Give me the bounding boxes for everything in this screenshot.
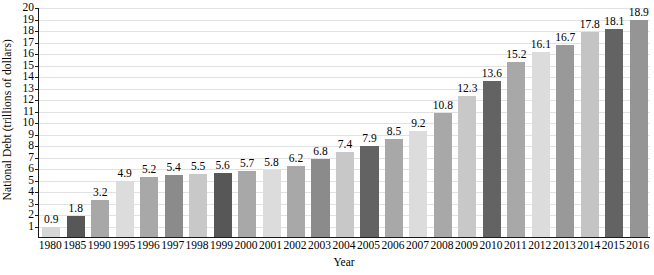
bar-group[interactable]: 16.7: [556, 45, 574, 237]
x-tick-label: 2012: [528, 240, 551, 252]
bar-value-label: 16.1: [531, 39, 551, 51]
bar[interactable]: [385, 139, 403, 237]
y-tick-label: 12: [23, 94, 35, 106]
x-tick-label: 1990: [88, 240, 111, 252]
bar[interactable]: [630, 20, 648, 237]
y-tick-label: 9: [28, 129, 34, 141]
bar-value-label: 6.8: [313, 146, 327, 158]
x-tick-label: 2010: [479, 240, 502, 252]
bar-value-label: 12.3: [457, 83, 477, 95]
bar-value-label: 1.8: [69, 203, 83, 215]
x-tick-label: 1995: [112, 240, 135, 252]
bar-group[interactable]: 5.6: [214, 173, 232, 237]
x-tick-label: 2011: [504, 240, 527, 252]
national-debt-bar-chart: National Debt (trillions of dollars) 123…: [0, 0, 654, 275]
bar-group[interactable]: 5.4: [165, 175, 183, 237]
bar-group[interactable]: 18.9: [630, 20, 648, 237]
y-tick-label: 14: [23, 71, 35, 83]
bar[interactable]: [42, 227, 60, 237]
bar[interactable]: [409, 131, 427, 237]
bar[interactable]: [556, 45, 574, 237]
y-tick-label: 6: [28, 163, 34, 175]
bar-group[interactable]: 15.2: [507, 62, 525, 237]
bar-group[interactable]: 4.9: [116, 181, 134, 237]
y-tick-label: 7: [28, 152, 34, 164]
bar[interactable]: [116, 181, 134, 237]
bar[interactable]: [91, 200, 109, 237]
x-tick-label: 2016: [626, 240, 649, 252]
bar-value-label: 7.4: [338, 139, 352, 151]
bar[interactable]: [483, 81, 501, 237]
bar-group[interactable]: 0.9: [42, 227, 60, 237]
y-tick-label: 5: [28, 175, 34, 187]
x-axis-tick-labels: 1980198519901995199619971998199920002001…: [38, 240, 650, 256]
bar[interactable]: [140, 177, 158, 237]
bar-group[interactable]: 3.2: [91, 200, 109, 237]
bar[interactable]: [581, 32, 599, 237]
x-tick-label: 2013: [553, 240, 576, 252]
bar[interactable]: [189, 174, 207, 237]
bar-group[interactable]: 18.1: [605, 29, 623, 237]
bar[interactable]: [287, 166, 305, 237]
y-tick-label: 13: [23, 83, 35, 95]
bar[interactable]: [67, 216, 85, 237]
bar-value-label: 8.5: [387, 126, 401, 138]
bar[interactable]: [336, 152, 354, 237]
bar-group[interactable]: 7.9: [360, 146, 378, 237]
y-tick-label: 15: [23, 60, 35, 72]
bar-value-label: 5.2: [142, 164, 156, 176]
bar-group[interactable]: 12.3: [458, 96, 476, 237]
bar-value-label: 9.2: [411, 118, 425, 130]
bar-group[interactable]: 13.6: [483, 81, 501, 237]
x-tick-label: 2008: [430, 240, 453, 252]
bar-group[interactable]: 10.8: [434, 113, 452, 237]
bar[interactable]: [458, 96, 476, 237]
y-tick-label: 20: [23, 2, 35, 14]
bar[interactable]: [238, 171, 256, 237]
bar[interactable]: [605, 29, 623, 237]
y-tick-label: 16: [23, 48, 35, 60]
x-tick-label: 2006: [381, 240, 404, 252]
bar-group[interactable]: 7.4: [336, 152, 354, 237]
bar-value-label: 18.1: [604, 16, 624, 28]
bar-group[interactable]: 1.8: [67, 216, 85, 237]
bar-series: 0.91.83.24.95.25.45.55.65.75.86.26.87.47…: [39, 8, 650, 237]
y-tick-label: 11: [23, 106, 34, 118]
bar-group[interactable]: 6.2: [287, 166, 305, 237]
x-tick-label: 2014: [577, 240, 600, 252]
bar[interactable]: [165, 175, 183, 237]
bar-group[interactable]: 6.8: [311, 159, 329, 237]
bar[interactable]: [311, 159, 329, 237]
x-tick-label: 1985: [63, 240, 86, 252]
x-tick-label: 2003: [308, 240, 331, 252]
x-tick-label: 2002: [284, 240, 307, 252]
bar-group[interactable]: 5.2: [140, 177, 158, 237]
bar[interactable]: [532, 52, 550, 237]
bar[interactable]: [360, 146, 378, 237]
y-tick-label: 18: [23, 25, 35, 37]
x-tick-label: 1980: [39, 240, 62, 252]
bar-group[interactable]: 5.7: [238, 171, 256, 237]
bar-value-label: 6.2: [289, 153, 303, 165]
y-tick-label: 19: [23, 14, 35, 26]
bar[interactable]: [434, 113, 452, 237]
bar-value-label: 0.9: [44, 214, 58, 226]
bar-group[interactable]: 8.5: [385, 139, 403, 237]
x-tick-label: 2001: [259, 240, 282, 252]
y-axis-title-text: National Debt (trillions of dollars): [2, 39, 14, 200]
bar-group[interactable]: 16.1: [532, 52, 550, 237]
bar-value-label: 10.8: [433, 100, 453, 112]
x-tick-label: 2007: [406, 240, 429, 252]
bar[interactable]: [507, 62, 525, 237]
bar-value-label: 15.2: [506, 49, 526, 61]
y-axis-tick-labels: 1234567891011121314151617181920: [16, 0, 36, 238]
bar-value-label: 13.6: [482, 68, 502, 80]
bar-value-label: 5.4: [166, 162, 180, 174]
bar-group[interactable]: 17.8: [581, 32, 599, 237]
bar-group[interactable]: 5.8: [263, 170, 281, 237]
bar-group[interactable]: 9.2: [409, 131, 427, 237]
bar[interactable]: [214, 173, 232, 237]
bar[interactable]: [263, 170, 281, 237]
x-tick-label: 2009: [455, 240, 478, 252]
bar-group[interactable]: 5.5: [189, 174, 207, 237]
